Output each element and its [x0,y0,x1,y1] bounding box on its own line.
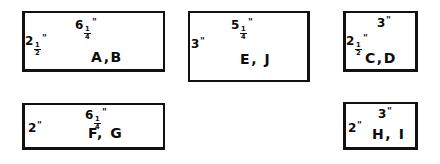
rect-hi-left-dimension: 2" [348,120,362,134]
rect-hi-label: H, I [372,127,406,141]
rect-fg-left-dimension: 2" [28,120,42,134]
rect-hi-top-dimension: 3" [378,106,392,120]
diagram-canvas: 614" 212" A,B 514" 3" E, J 3" 212" C,D 6… [0,0,440,164]
rect-ej-top-dimension: 514" [231,17,253,41]
rect-cd-top-dimension: 3" [377,15,391,29]
rect-ab-left-dimension: 212" [25,33,47,57]
rect-ej-left-dimension: 3" [191,36,205,50]
rect-ab-label: A,B [91,50,123,64]
rect-ab-top-dimension: 614" [75,17,97,41]
rect-cd-label: C,D [365,51,397,65]
rect-fg-label: F, G [88,126,123,140]
rect-ej-label: E, J [240,52,271,66]
